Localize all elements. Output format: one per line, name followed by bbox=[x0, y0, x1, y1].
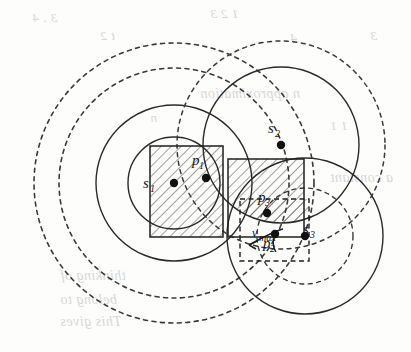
geometry-figure: s1s2s3p1p2p3 v max bbox=[0, 0, 411, 352]
label-s3-sub: 3 bbox=[309, 229, 315, 240]
figure-canvas: 3 . 41 2 334t 2n approximationn1 1a cons… bbox=[0, 0, 411, 352]
label-p2-sub: 2 bbox=[270, 243, 275, 254]
point-marker-p1 bbox=[202, 174, 210, 182]
label-p3-sub: 3 bbox=[264, 197, 270, 208]
label-s2-sub: 2 bbox=[275, 128, 280, 139]
label-p1-sub: 1 bbox=[199, 160, 204, 171]
hatched-region-left bbox=[140, 136, 240, 251]
vmax-label-base: v bbox=[252, 226, 258, 240]
point-marker-s2 bbox=[277, 141, 285, 149]
point-s2: s2 bbox=[268, 120, 285, 149]
point-s3: s3 bbox=[301, 221, 315, 240]
vmax-label-sub: max bbox=[259, 232, 276, 243]
point-marker-s1 bbox=[170, 179, 178, 187]
label-s1-base: s bbox=[143, 175, 149, 191]
label-s2-base: s bbox=[268, 120, 274, 136]
label-s1-sub: 1 bbox=[150, 183, 155, 194]
point-marker-p3 bbox=[263, 209, 271, 217]
vmax-label: v max bbox=[252, 226, 276, 243]
label-s3-base: s bbox=[303, 221, 309, 237]
